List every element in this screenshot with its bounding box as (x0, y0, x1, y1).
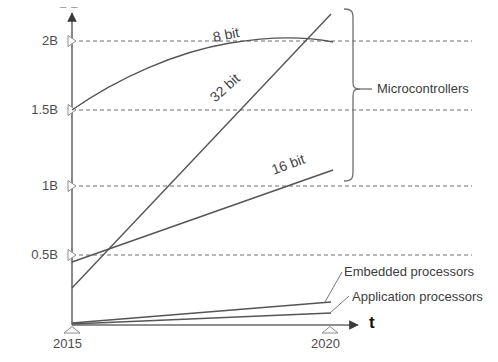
x-axis-name: t (369, 314, 375, 331)
series-line-application-processors (72, 313, 331, 324)
callout-label-embedded-processors: Embedded processors (344, 265, 474, 278)
series-line-embedded-processors (72, 302, 331, 323)
x-tick-label-2015: 2015 (53, 337, 82, 350)
chart-plot-svg (0, 0, 498, 362)
x-tick-marks (64, 327, 338, 334)
gridlines (72, 41, 472, 255)
series-line-32-bit (72, 14, 331, 288)
x-tick-label-2020: 2020 (311, 337, 340, 350)
axis-lines (72, 13, 358, 325)
callout-label-application-processors: Application processors (352, 290, 483, 303)
clipped-top-axis-label: _ _ (60, 0, 78, 8)
microcontrollers-brace (344, 9, 372, 181)
x-tick-2015 (64, 327, 80, 334)
series-line-8-bit (72, 38, 333, 110)
callout-label-microcontrollers: Microcontrollers (377, 82, 469, 95)
y-tick-label-2B: 2B (6, 34, 58, 47)
y-tick-label-0.5B: 0.5B (6, 248, 58, 261)
leader-line-embedded-processors (325, 272, 342, 302)
leader-line-application-processors (330, 296, 349, 313)
series-line-16-bit (72, 170, 333, 262)
y-tick-label-1.5B: 1.5B (6, 103, 58, 116)
chart-canvas: _ _ 2B 1.5B 1B 0.5B 2015 2020 t 8 bit 32… (0, 0, 498, 362)
x-tick-2020 (322, 327, 338, 334)
y-tick-label-1B: 1B (6, 179, 58, 192)
